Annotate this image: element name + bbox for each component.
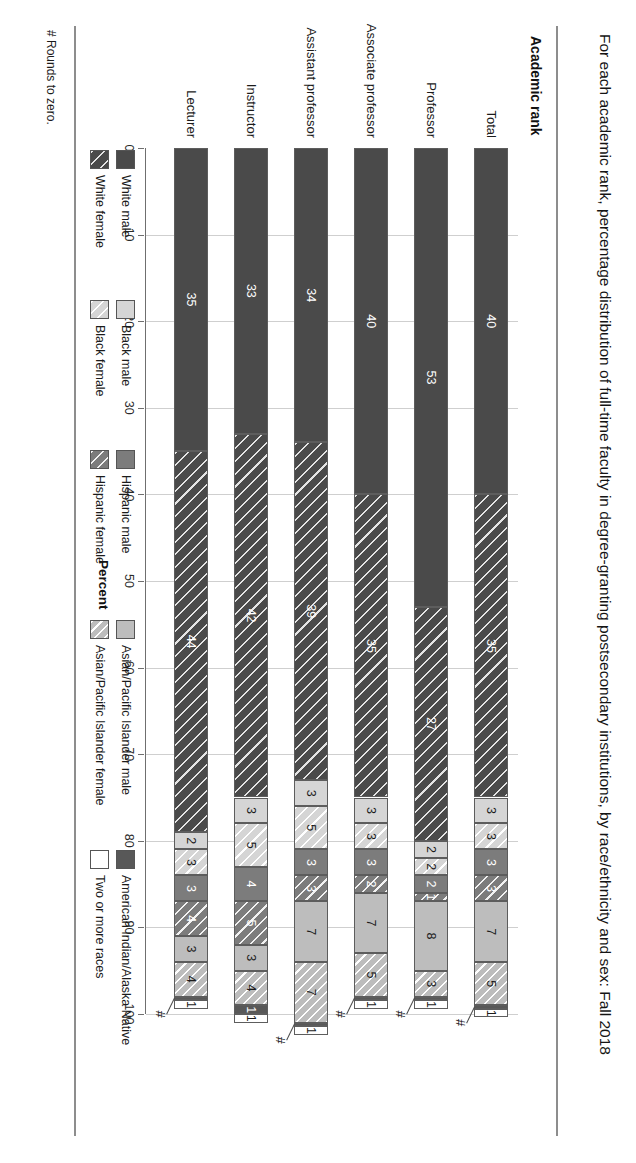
bar-value-label: 3 — [234, 798, 268, 824]
bar-value-label: 2 — [354, 875, 388, 892]
y-axis-title: Academic rank — [528, 36, 544, 136]
bar-value-label: 40 — [474, 148, 508, 494]
legend-swatch-black_female — [90, 300, 109, 319]
x-axis-tick — [138, 927, 144, 928]
bar-value-label: 44 — [174, 451, 208, 832]
bar-value-label: 3 — [354, 849, 388, 875]
bar-value-label: 5 — [234, 901, 268, 944]
bar-value-label: 1 — [474, 1009, 508, 1018]
bar-value-label: 34 — [294, 148, 328, 442]
bar-value-label: 2 — [174, 832, 208, 849]
bar-value-label: 3 — [174, 849, 208, 875]
bar-row: Total4035333375#1 — [474, 148, 508, 1014]
legend-swatch-black_male — [116, 300, 135, 319]
legend-swatch-white_male — [116, 150, 135, 169]
category-label: Assistant professor — [294, 0, 328, 148]
legend-label: Two or more races — [89, 875, 110, 979]
legend-swatch-api_male — [116, 620, 135, 639]
bar-value-label: 7 — [354, 893, 388, 954]
bar-value-label: 3 — [474, 875, 508, 901]
legend-swatch-two_or_more — [90, 850, 109, 869]
bar-value-label: 8 — [414, 901, 448, 970]
x-axis-tick — [138, 841, 144, 842]
legend-label: White female — [89, 175, 110, 248]
bar-row: Lecturer3544233434#1 — [174, 148, 208, 1014]
x-axis-tick — [138, 494, 144, 495]
legend-label: Hispanic male — [115, 475, 136, 554]
legend-label: White male — [115, 175, 136, 238]
chart-legend: White maleWhite femaleBlack maleBlack fe… — [80, 150, 136, 1090]
legend-label: American Indian/Alaska Native — [115, 875, 136, 1045]
bar-value-label: 3 — [174, 936, 208, 962]
bar-value-label: 3 — [414, 971, 448, 997]
gridline — [146, 1014, 518, 1015]
x-axis-tick — [138, 148, 144, 149]
x-axis-tick — [138, 668, 144, 669]
bar-value-label: 3 — [294, 849, 328, 875]
legend-divider — [74, 26, 76, 1136]
legend-label: Black female — [89, 325, 110, 397]
bar-value-label: 4 — [234, 867, 268, 902]
x-axis-tick — [138, 581, 144, 582]
bar-value-label: 1 — [414, 1000, 448, 1009]
bar-value-label: 5 — [354, 953, 388, 996]
bar-value-label: 2 — [414, 875, 448, 892]
x-axis-tick — [138, 235, 144, 236]
bar-value-label: 3 — [474, 849, 508, 875]
bar-value-label: 3 — [234, 945, 268, 971]
bar-value-label: 3 — [474, 798, 508, 824]
legend-swatch-white_female — [90, 150, 109, 169]
chart-stage: For each academic rank, percentage distr… — [0, 0, 636, 1163]
legend-label: Asian/Pacific Islander female — [89, 645, 110, 806]
legend-label: Black male — [115, 325, 136, 386]
bar-value-label: 5 — [234, 823, 268, 866]
page-title: For each academic rank, percentage distr… — [593, 34, 618, 1124]
category-label: Total — [474, 0, 508, 148]
bar-value-label: 1 — [234, 1005, 268, 1014]
bar-value-label: 33 — [234, 148, 268, 434]
bar-value-label: 1 — [414, 893, 448, 902]
x-axis-tick — [138, 1014, 144, 1015]
bar-row: Professor5327222183#1 — [414, 148, 448, 1014]
category-label: Lecturer — [174, 0, 208, 148]
bar-value-label: 2 — [414, 858, 448, 875]
title-divider — [556, 26, 558, 1136]
bar-value-label: 7 — [294, 901, 328, 962]
bar-row: Associate professor4035333275#1 — [354, 148, 388, 1014]
x-axis-tick — [138, 408, 144, 409]
bar-value-label: 40 — [354, 148, 388, 494]
bar-value-label: 3 — [354, 798, 388, 824]
bar-value-label: 1 — [174, 1000, 208, 1009]
x-axis-line — [145, 148, 146, 1014]
bar-row: Instructor334235453411 — [234, 148, 268, 1014]
x-axis-tick — [138, 754, 144, 755]
bar-value-label: 1 — [294, 1026, 328, 1035]
bar-value-label: 7 — [294, 962, 328, 1023]
bar-value-label: 7 — [474, 901, 508, 962]
bar-value-label: 35 — [174, 148, 208, 451]
bar-value-label: 35 — [474, 494, 508, 797]
bar-value-label: 53 — [414, 148, 448, 607]
bar-value-label: 42 — [234, 434, 268, 798]
legend-label: Asian/Pacific Islander male — [115, 645, 136, 795]
bar-value-label: 3 — [294, 875, 328, 901]
bar-value-label: 35 — [354, 494, 388, 797]
footnote: # Rounds to zero. — [44, 30, 58, 125]
bar-value-label: 3 — [354, 823, 388, 849]
bar-value-label: 4 — [174, 901, 208, 936]
bar-value-label: 2 — [414, 841, 448, 858]
bar-value-label: 3 — [474, 823, 508, 849]
bar-row: Assistant professor3439353377#1 — [294, 148, 328, 1014]
bar-value-label: 5 — [474, 962, 508, 1005]
legend-swatch-aian — [116, 850, 135, 869]
category-label: Instructor — [234, 0, 268, 148]
bar-value-label: 39 — [294, 442, 328, 780]
legend-swatch-hispanic_female — [90, 450, 109, 469]
plot-area: 0102030405060708090100Total4035333375#1P… — [146, 148, 518, 1014]
bar-value-label: 4 — [234, 971, 268, 1006]
x-axis-tick — [138, 321, 144, 322]
legend-label: Hispanic female — [89, 475, 110, 564]
legend-swatch-hispanic_male — [116, 450, 135, 469]
bar-value-label: 5 — [294, 806, 328, 849]
bar-value-label: 27 — [414, 607, 448, 841]
